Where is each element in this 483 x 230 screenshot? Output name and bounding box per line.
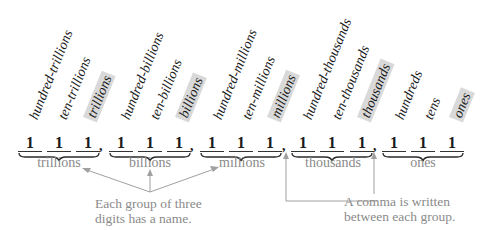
note-comma-line2: between each group.	[344, 209, 455, 224]
note-comma: A comma is written between each group.	[344, 194, 455, 224]
group-label-millions: millions	[202, 155, 282, 171]
note-group-name-line1: Each group of three	[95, 196, 202, 211]
note-comma-line1: A comma is written	[344, 194, 455, 209]
arrowhead-icon	[283, 152, 289, 159]
note-group-name-line2: digits has a name.	[95, 211, 202, 226]
note-group-name: Each group of three digits has a name.	[95, 196, 202, 226]
group-label-ones: ones	[383, 155, 463, 171]
group-label-thousands: thousands	[293, 155, 373, 171]
group-label-billions: billions	[110, 155, 190, 171]
group-label-trillions: trillions	[19, 155, 99, 171]
place-value-diagram: hundred-trillions ten-trillions trillion…	[0, 0, 483, 230]
